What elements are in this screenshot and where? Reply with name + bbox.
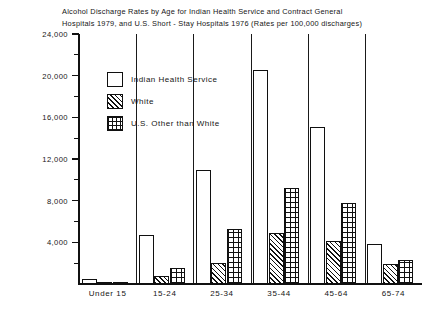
x-axis-label: 65-74 bbox=[365, 289, 422, 298]
y-axis-minor-tick bbox=[74, 96, 79, 97]
legend-label-us-other-than-white: U.S. Other than White bbox=[131, 119, 220, 128]
group-separator bbox=[365, 34, 366, 283]
y-axis-minor-tick bbox=[74, 179, 79, 180]
legend-swatch-icon-us-other-than-white bbox=[107, 116, 123, 131]
y-axis-tick bbox=[72, 242, 79, 243]
legend-item-indian-health-service: Indian Health Service bbox=[107, 68, 220, 90]
x-axis-label: 15-24 bbox=[136, 289, 193, 298]
bar bbox=[310, 127, 325, 284]
x-axis-label: 45-64 bbox=[308, 289, 365, 298]
bar bbox=[113, 282, 128, 284]
bar bbox=[341, 203, 356, 284]
group-separator bbox=[308, 34, 309, 283]
y-axis-tick-label: 24,000 bbox=[12, 30, 68, 39]
chart-title: Alcohol Discharge Rates by Age for India… bbox=[62, 6, 422, 29]
group-separator bbox=[251, 34, 252, 283]
bar bbox=[227, 229, 242, 284]
legend-label-white: White bbox=[131, 97, 154, 106]
bar bbox=[398, 260, 413, 284]
y-axis-minor-tick bbox=[74, 221, 79, 222]
bar bbox=[253, 70, 268, 284]
bar bbox=[82, 279, 97, 284]
bar bbox=[284, 188, 299, 284]
legend-label-indian-health-service: Indian Health Service bbox=[131, 75, 218, 84]
bar bbox=[383, 264, 398, 284]
legend-swatch-icon-white bbox=[107, 94, 123, 109]
bar bbox=[367, 244, 382, 284]
y-axis-minor-tick bbox=[74, 263, 79, 264]
y-axis-tick bbox=[72, 75, 79, 76]
alcohol-discharge-rates-bar-chart: Alcohol Discharge Rates by Age for India… bbox=[0, 0, 430, 309]
legend-item-white: White bbox=[107, 90, 220, 112]
bar bbox=[211, 263, 226, 284]
y-axis-tick bbox=[72, 200, 79, 201]
legend-item-us-other-than-white: U.S. Other than White bbox=[107, 112, 220, 134]
bar bbox=[269, 233, 284, 284]
y-axis-tick bbox=[72, 117, 79, 118]
x-axis-label: Under 15 bbox=[79, 289, 136, 298]
y-axis-tick-label: 16,000 bbox=[12, 113, 68, 122]
legend-swatch-icon-indian-health-service bbox=[107, 72, 123, 87]
y-axis-tick-label: 4,000 bbox=[12, 238, 68, 247]
x-axis-label: 25-34 bbox=[193, 289, 250, 298]
y-axis-tick-label: 12,000 bbox=[12, 155, 68, 164]
y-axis-minor-tick bbox=[74, 138, 79, 139]
chart-legend: Indian Health Service White U.S. Other t… bbox=[107, 68, 220, 134]
y-axis-tick-label: 8,000 bbox=[12, 197, 68, 206]
bar bbox=[139, 235, 154, 284]
bar bbox=[97, 282, 112, 284]
bar bbox=[326, 241, 341, 284]
bar bbox=[196, 170, 211, 284]
bar bbox=[170, 268, 185, 284]
y-axis-tick bbox=[72, 33, 79, 34]
y-axis-tick bbox=[72, 158, 79, 159]
x-axis-label: 35-44 bbox=[251, 289, 308, 298]
y-axis-minor-tick bbox=[74, 54, 79, 55]
bar bbox=[154, 276, 169, 284]
y-axis-tick-label: 20,000 bbox=[12, 72, 68, 81]
